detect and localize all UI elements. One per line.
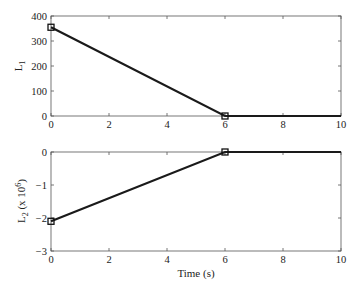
x-tick-label: 8 <box>280 119 285 130</box>
y-tick-label: −2 <box>36 213 47 224</box>
x-tick-label: 8 <box>280 254 285 265</box>
x-tick-label: 4 <box>164 254 170 265</box>
x-tick-label: 2 <box>106 254 111 265</box>
bottom-y-axis-label: L2 (x 106) <box>14 179 30 223</box>
x-axis-label: Time (s) <box>177 267 215 280</box>
top-y-axis-label: L1 <box>12 61 27 72</box>
x-tick-label: 6 <box>222 254 227 265</box>
bottom-series-line <box>51 152 341 221</box>
y-tick-label: 0 <box>42 147 47 158</box>
y-tick-label: −3 <box>36 246 47 257</box>
figure: 0246810 0100200300400 L1 0246810 −3−2−10… <box>0 0 362 293</box>
y-tick-label: 100 <box>31 86 47 97</box>
bottom-axes-frame <box>51 152 341 251</box>
bottom-y-ticks: −3−2−10 <box>36 147 341 257</box>
y-tick-label: 200 <box>31 61 47 72</box>
y-tick-label: 300 <box>31 36 47 47</box>
x-tick-label: 2 <box>106 119 111 130</box>
y-tick-label: −1 <box>36 180 47 191</box>
y-tick-label: 400 <box>31 11 47 22</box>
bottom-x-ticks: 0246810 <box>48 152 346 265</box>
top-y-ticks: 0100200300400 <box>31 11 341 122</box>
x-tick-label: 10 <box>336 119 347 130</box>
x-tick-label: 10 <box>336 254 347 265</box>
top-x-ticks: 0246810 <box>48 16 346 130</box>
x-tick-label: 6 <box>222 119 227 130</box>
top-series-line <box>51 27 341 116</box>
bottom-subplot: 0246810 −3−2−10 L2 (x 106) Time (s) <box>14 147 346 281</box>
top-subplot: 0246810 0100200300400 L1 <box>12 11 346 131</box>
x-tick-label: 0 <box>48 254 53 265</box>
y-tick-label: 0 <box>42 111 47 122</box>
x-tick-label: 0 <box>48 119 53 130</box>
x-tick-label: 4 <box>164 119 170 130</box>
